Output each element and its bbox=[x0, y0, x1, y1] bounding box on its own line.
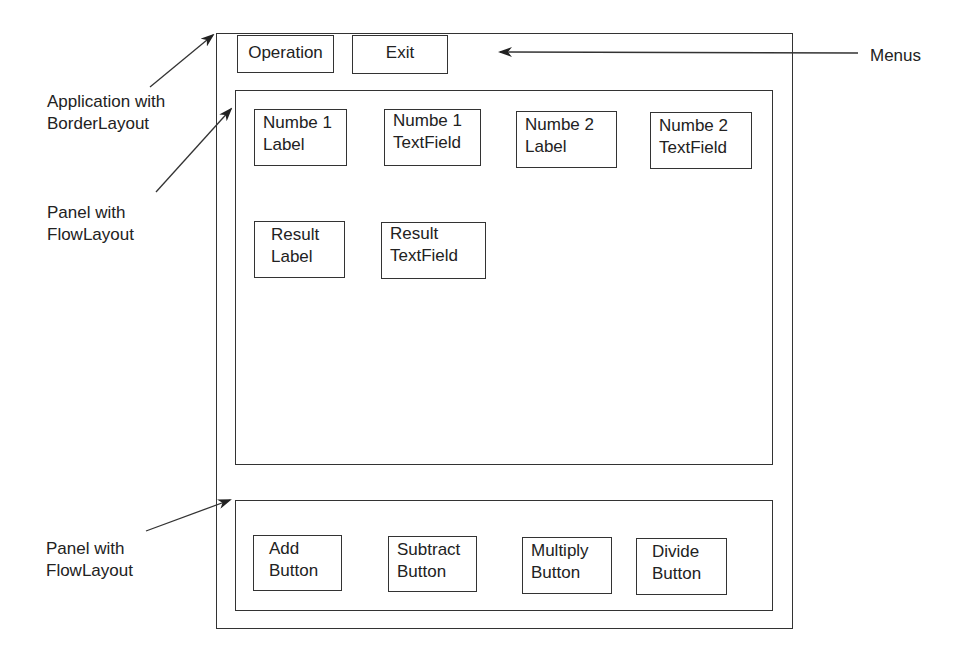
arrow-layer bbox=[0, 0, 979, 662]
arrow-south-panel bbox=[146, 500, 230, 531]
arrow-center-panel bbox=[156, 109, 231, 192]
arrow-menus bbox=[500, 52, 858, 53]
arrow-application bbox=[150, 35, 213, 87]
